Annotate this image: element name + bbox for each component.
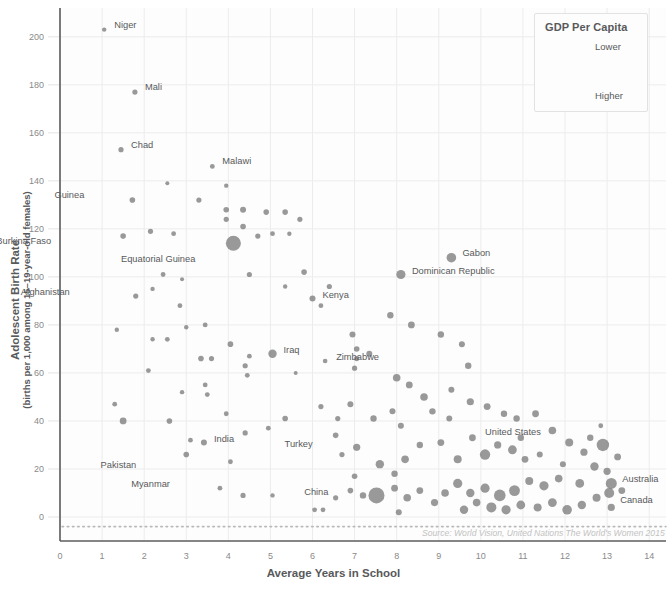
y-tick-label: 180 (29, 80, 44, 90)
data-point (294, 371, 298, 375)
point-label: Zimbabwe (336, 353, 379, 362)
x-tick-label: 11 (518, 551, 527, 561)
y-tick-label: 120 (29, 224, 44, 234)
data-point (223, 207, 229, 213)
data-point (453, 479, 462, 488)
data-point (339, 452, 344, 457)
data-point (354, 346, 360, 352)
point-label: Gabon (462, 249, 490, 258)
y-tick-label: 0 (39, 512, 44, 522)
data-point (224, 411, 229, 416)
data-point (198, 356, 204, 362)
data-point (115, 328, 119, 332)
data-point (180, 390, 184, 394)
data-point (349, 332, 355, 338)
data-point (245, 373, 250, 378)
data-point (353, 444, 360, 451)
data-point (321, 507, 326, 512)
data-point (210, 164, 215, 169)
data-point (376, 460, 384, 468)
data-point (310, 296, 316, 302)
legend-label-higher: Higher (595, 90, 623, 101)
data-point (598, 423, 603, 428)
data-point (416, 487, 423, 494)
data-point (406, 382, 413, 389)
data-point (118, 147, 123, 152)
data-point (473, 499, 481, 507)
data-point (183, 452, 189, 458)
point-label: Iraq (284, 346, 300, 355)
x-tick-label: 0 (57, 551, 62, 561)
data-point (112, 402, 117, 407)
data-point (203, 323, 208, 328)
data-point (606, 478, 617, 489)
x-tick-label: 1 (100, 551, 105, 561)
data-point (240, 207, 246, 213)
point-label: Afghanistan (21, 288, 70, 297)
data-point (218, 486, 223, 491)
data-point (270, 231, 275, 236)
point-label: Australia (622, 475, 658, 484)
data-point (447, 253, 457, 263)
data-point (389, 408, 395, 414)
data-point (548, 498, 557, 507)
data-point (352, 473, 358, 479)
y-tick-label: 40 (34, 416, 44, 426)
data-point (297, 217, 302, 222)
data-point (243, 430, 248, 435)
data-point (312, 507, 317, 512)
x-tick-label: 13 (602, 551, 612, 561)
data-point (283, 284, 287, 288)
point-label: Canada (620, 496, 653, 505)
data-point (224, 217, 229, 222)
data-point (348, 488, 354, 494)
x-tick-label: 4 (226, 551, 231, 561)
data-point (130, 197, 136, 203)
y-tick-label: 140 (29, 176, 44, 186)
data-point (327, 284, 332, 289)
data-point (459, 341, 465, 347)
data-point (335, 416, 340, 421)
data-point (509, 485, 520, 496)
data-point (508, 445, 517, 454)
data-point (133, 294, 138, 299)
point-label: Niger (114, 21, 136, 30)
data-point (393, 374, 401, 382)
x-tick-label: 3 (184, 551, 189, 561)
data-point (150, 337, 154, 341)
data-point (165, 181, 169, 185)
data-point (575, 479, 584, 488)
x-tick-label: 14 (644, 551, 654, 561)
data-point (391, 485, 398, 492)
point-label: Guinea (54, 191, 84, 200)
data-point (318, 404, 323, 409)
data-point (486, 502, 496, 512)
data-point (469, 434, 476, 441)
x-tick-label: 12 (560, 551, 570, 561)
data-point (513, 415, 519, 421)
data-point (323, 359, 328, 364)
data-point (247, 354, 252, 359)
data-point (120, 233, 126, 239)
legend-label-lower: Lower (595, 41, 621, 52)
x-axis-label: Average Years in School (0, 567, 667, 579)
data-point (120, 418, 127, 425)
data-point (618, 487, 625, 494)
data-point (150, 287, 154, 291)
data-point (146, 368, 151, 373)
source-note: Source: World Vision, United Nations The… (422, 528, 665, 538)
data-point (201, 440, 207, 446)
point-label: Malawi (222, 157, 251, 166)
point-label: United States (485, 428, 541, 437)
point-label: Dominican Republic (412, 267, 495, 276)
data-point (539, 481, 548, 490)
data-point (368, 487, 384, 503)
data-point (167, 418, 173, 424)
data-point (205, 392, 210, 397)
data-point (460, 506, 468, 514)
data-point (603, 468, 610, 475)
data-point (484, 403, 491, 410)
scatter-chart: 0204060801001201401601802000123456789101… (0, 0, 667, 590)
data-point (161, 272, 166, 277)
data-point (333, 433, 339, 439)
